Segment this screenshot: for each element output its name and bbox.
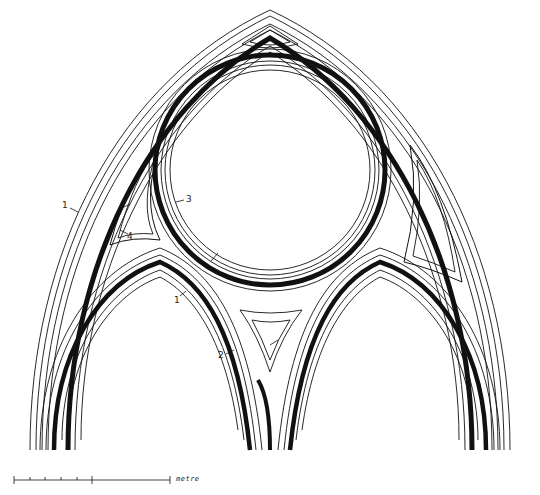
label-1-outer: 1 [62, 200, 68, 210]
label-2: 2 [218, 350, 224, 360]
central-mullion [258, 380, 270, 450]
tracery-drawing [0, 0, 540, 495]
inner-arch [75, 46, 465, 450]
outer-arch [30, 10, 510, 450]
right-spandrel [404, 145, 462, 282]
bottom-spandrel [240, 310, 302, 372]
label-3: 3 [186, 194, 192, 204]
label-4: 4 [127, 231, 133, 241]
label-1-inner: 1 [174, 295, 180, 305]
circle-oculus [149, 49, 391, 291]
scale-bar [14, 476, 170, 484]
main-arch-thick [68, 38, 472, 450]
scale-unit-label: metre [176, 475, 200, 483]
